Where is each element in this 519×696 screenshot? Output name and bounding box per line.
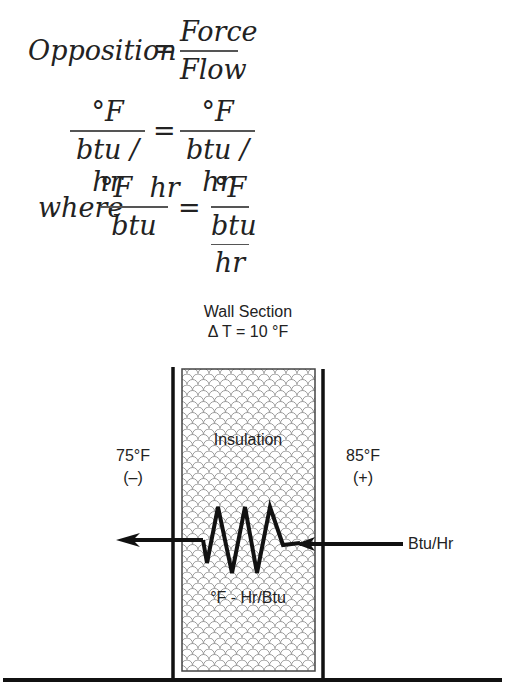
outside-sign-label: (+) xyxy=(333,468,393,488)
insulation-label: Insulation xyxy=(198,431,298,449)
outside-temp-label: 85°F xyxy=(333,446,393,466)
resistance-unit-label: °F - Hr/Btu xyxy=(183,589,313,607)
heat-flow-label: Btu/Hr xyxy=(408,535,478,553)
delta-t-label: Δ T = 10 °F xyxy=(188,322,308,342)
inside-temp-label: 75°F xyxy=(103,446,163,466)
inside-sign-label: (–) xyxy=(103,468,163,488)
wall-section-title: Wall Section xyxy=(188,302,308,322)
